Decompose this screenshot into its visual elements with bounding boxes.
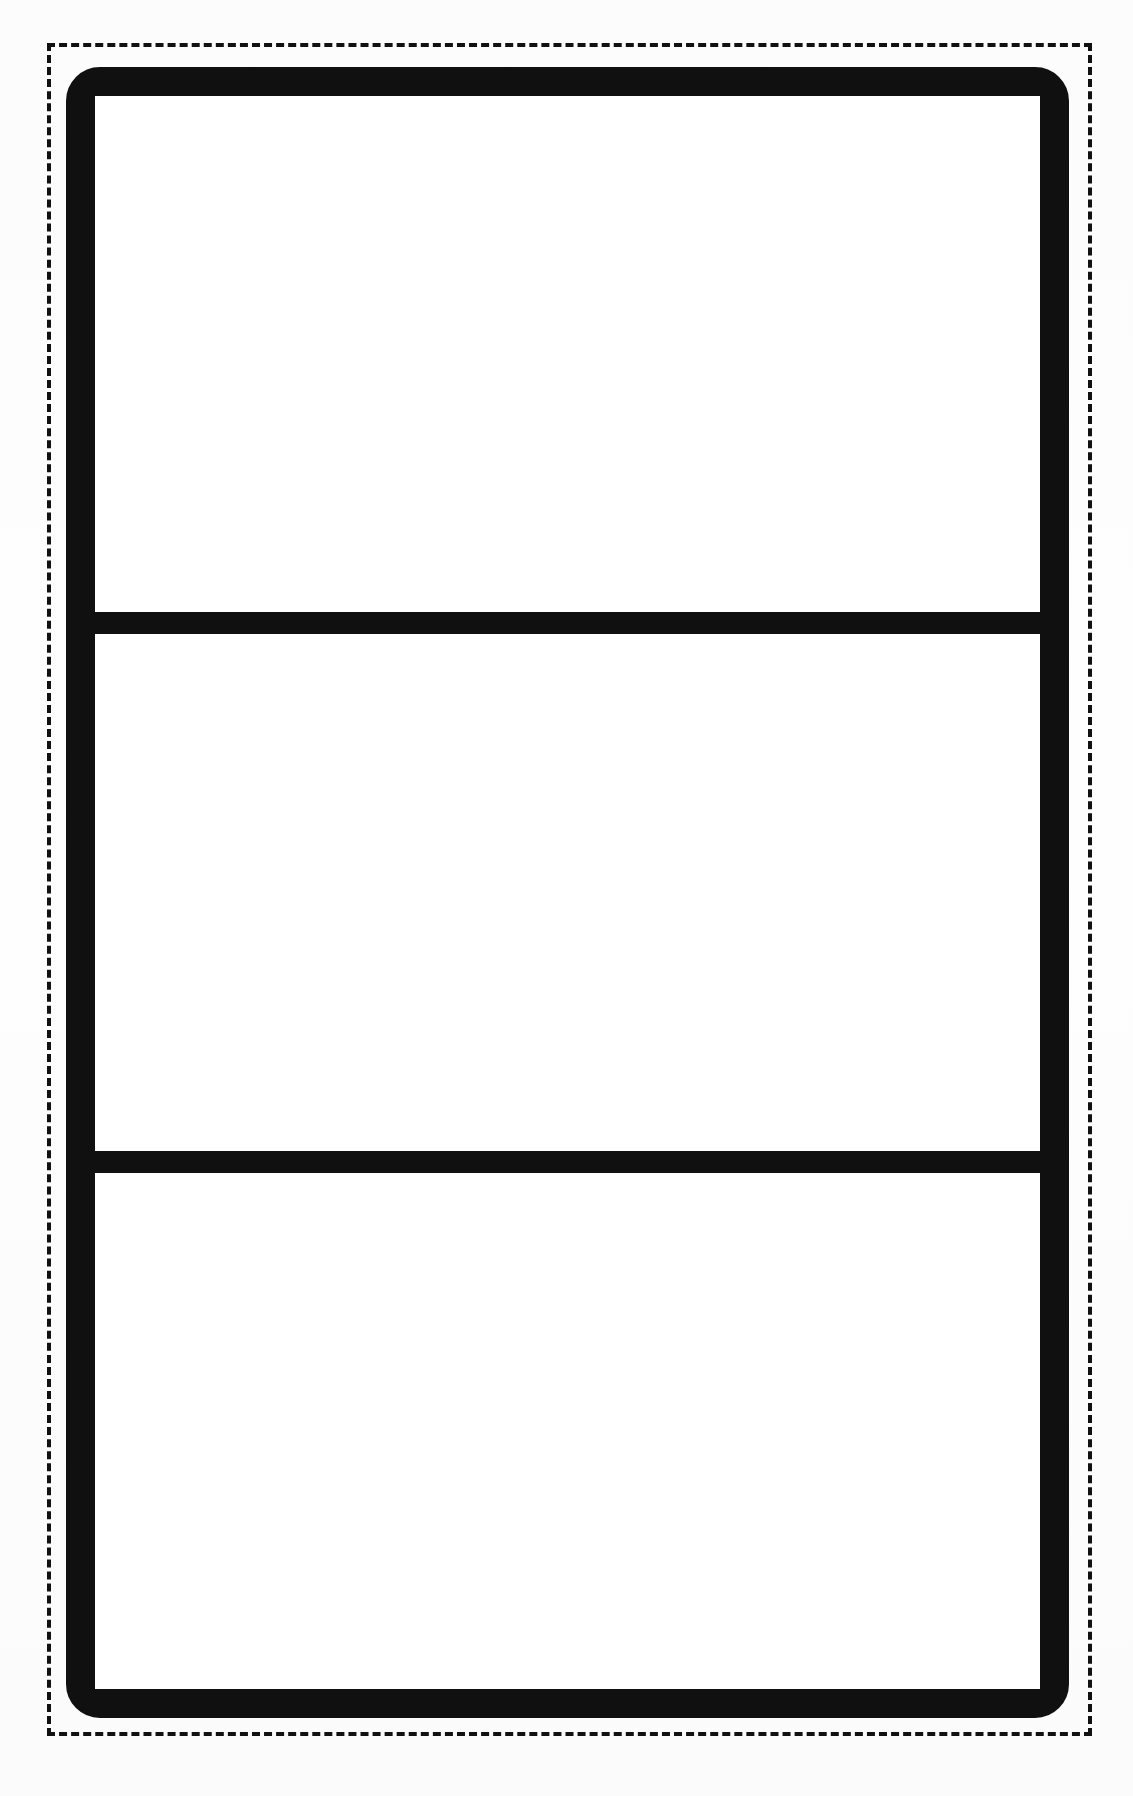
- page-canvas: [0, 0, 1133, 1796]
- cell-middle[interactable]: [95, 612, 1040, 1150]
- cell-bottom[interactable]: [95, 1151, 1040, 1689]
- bordered-card[interactable]: [66, 67, 1069, 1718]
- cell-top[interactable]: [95, 96, 1040, 612]
